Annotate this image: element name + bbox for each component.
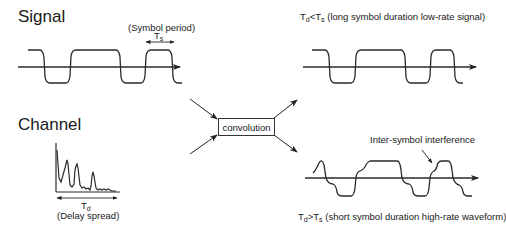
caption-text: (short symbol duration high-rate wavefor…: [323, 211, 506, 222]
isi-pointer-arrow: [422, 150, 432, 163]
convolution-box: convolution: [218, 118, 275, 136]
ts-label: Ts: [154, 30, 163, 42]
input-signal-waveform: [18, 50, 182, 83]
channel-title: Channel: [18, 115, 81, 135]
caption-text: (long symbol duration low-rate signal): [325, 11, 486, 22]
isi-label: Inter-symbol interference: [370, 134, 475, 145]
low-rate-caption: Td<Ts (long symbol duration low-rate sig…: [300, 11, 485, 23]
delay-spread-label: (Delay spread): [57, 210, 119, 221]
ts-subscript: s: [160, 35, 164, 42]
high-rate-caption: Td>Ts (short symbol duration high-rate w…: [298, 211, 506, 223]
output-low-rate-waveform: [303, 50, 476, 83]
signal-title: Signal: [18, 7, 65, 27]
output-high-rate-waveform: [305, 161, 478, 196]
channel-impulse-response: [56, 143, 120, 198]
convolution-label: convolution: [222, 122, 270, 133]
